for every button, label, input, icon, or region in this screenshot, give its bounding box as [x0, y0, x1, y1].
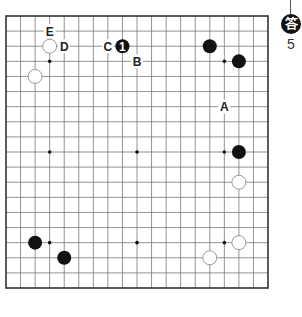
point-label-c: C [104, 40, 113, 54]
star-point [223, 60, 227, 64]
star-point [48, 60, 52, 64]
white-stone [232, 175, 246, 189]
black-stone [203, 39, 217, 53]
badge-connector-line [290, 0, 291, 14]
white-stone [232, 236, 246, 250]
white-stone [203, 251, 217, 265]
point-label-d: D [60, 40, 69, 54]
black-stone [232, 145, 246, 159]
star-point [135, 241, 139, 245]
black-stone [57, 251, 71, 265]
answer-icon: 答 [281, 14, 301, 34]
star-point [135, 150, 139, 154]
white-stone [43, 39, 57, 53]
point-label-b: B [133, 55, 142, 69]
star-point [48, 150, 52, 154]
point-label-a: A [220, 100, 229, 114]
star-point [223, 241, 227, 245]
black-stone: 1 [115, 39, 129, 54]
white-stone [28, 69, 42, 83]
point-label-e: E [46, 25, 54, 39]
answer-number: 5 [281, 36, 301, 52]
go-board: 1 EDCBA [0, 0, 280, 300]
answer-badge: 答 5 [281, 0, 301, 60]
move-number: 1 [119, 40, 126, 54]
star-point [223, 150, 227, 154]
black-stone [28, 236, 42, 250]
star-point [48, 241, 52, 245]
black-stone [232, 54, 246, 68]
